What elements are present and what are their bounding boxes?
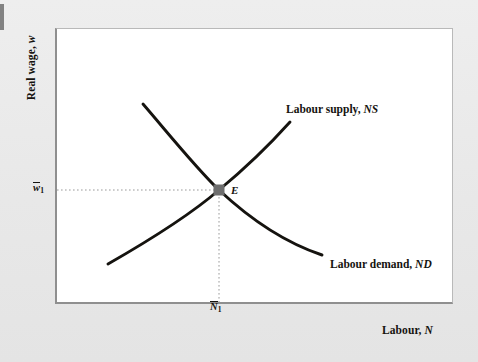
page-edge-artifact xyxy=(0,4,4,30)
x-axis-title-text: Labour, xyxy=(382,324,422,336)
labour-supply-label-symbol: NS xyxy=(363,103,378,115)
x-axis-title: Labour, N xyxy=(382,325,433,337)
labour-demand-label: Labour demand, ND xyxy=(330,259,432,271)
x-axis-title-symbol: N xyxy=(425,324,433,336)
wage-tick-subscript: 1 xyxy=(40,186,44,195)
labour-supply-label-text: Labour supply, xyxy=(286,103,361,115)
y-axis-title-text: Real wage, xyxy=(25,46,37,100)
labour-supply-label: Labour supply, NS xyxy=(286,104,378,116)
labour-tick-subscript: 1 xyxy=(218,305,222,314)
labour-tick-label: N1 xyxy=(210,301,222,314)
wage-tick-symbol: w xyxy=(33,182,40,194)
labour-tick-symbol: N xyxy=(210,301,218,313)
labour-demand-label-text: Labour demand, xyxy=(330,258,412,270)
equilibrium-label: E xyxy=(231,185,238,196)
y-axis-title-symbol: w xyxy=(25,35,37,43)
labour-demand-label-symbol: ND xyxy=(415,258,432,270)
y-axis-title: Real wage, w xyxy=(26,13,38,123)
figure-root: Real wage, w Labour, N Labour supply, NS… xyxy=(0,0,478,362)
wage-tick-label: w1 xyxy=(33,182,44,195)
